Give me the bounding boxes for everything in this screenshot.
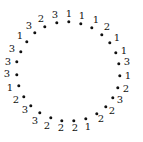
dot	[25, 40, 28, 43]
dot	[114, 51, 117, 54]
dot	[79, 22, 82, 25]
dot	[108, 41, 111, 44]
dot-label: 1	[17, 31, 23, 41]
dot	[38, 111, 41, 114]
dot-label: 3	[9, 44, 15, 54]
dot	[116, 86, 119, 89]
dot	[15, 60, 18, 63]
dot	[117, 62, 120, 65]
dot-label: 3	[22, 105, 28, 115]
dot	[19, 50, 22, 53]
dot	[22, 95, 25, 98]
dot	[49, 116, 52, 119]
dot-label: 3	[5, 57, 11, 67]
dot	[55, 21, 58, 24]
dot	[111, 96, 114, 99]
dot-label: 3	[52, 10, 58, 20]
dot	[104, 105, 107, 108]
dot-label: 3	[32, 116, 38, 126]
dot	[15, 73, 18, 76]
dot-label: 2	[98, 114, 104, 124]
dot	[100, 33, 103, 36]
dot	[67, 20, 70, 23]
dot-label: 2	[104, 22, 110, 32]
dot	[90, 26, 93, 29]
dot-label: 1	[66, 9, 72, 19]
dot-label: 2	[13, 95, 19, 105]
dot-label: 1	[7, 83, 13, 93]
dot	[43, 25, 46, 28]
dot-label: 3	[26, 21, 32, 31]
dot-circle-diagram: 111211312322122233213331323	[0, 0, 143, 142]
dot-label: 2	[72, 123, 78, 133]
dot-label: 1	[114, 33, 120, 43]
dot-label: 1	[79, 11, 85, 21]
dot-label: 1	[93, 15, 99, 25]
dot	[33, 31, 36, 34]
dot-label: 1	[85, 122, 91, 132]
dot-label: 1	[125, 71, 131, 81]
dot-label: 2	[44, 121, 50, 131]
dot-label: 1	[121, 46, 127, 56]
dot-label: 2	[58, 123, 64, 133]
dot	[118, 74, 121, 77]
dot-label: 2	[38, 14, 44, 24]
dot-label: 3	[4, 69, 10, 79]
dot-label: 2	[109, 106, 115, 116]
dot-label: 3	[117, 95, 123, 105]
dot-label: 3	[124, 57, 130, 67]
dot	[17, 84, 20, 87]
dot	[29, 104, 32, 107]
dot-label: 2	[123, 84, 129, 94]
